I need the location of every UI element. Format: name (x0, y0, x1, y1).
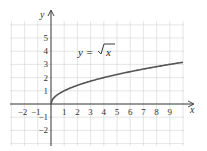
y-tick-label: 5 (44, 33, 49, 43)
x-tick-label: −2 (18, 107, 28, 117)
x-tick-label: 5 (115, 107, 120, 117)
equation-rhs: x (105, 46, 111, 58)
x-tick-label: 6 (128, 107, 133, 117)
y-axis-label: y (39, 9, 45, 20)
y-tick-label: 2 (44, 73, 49, 83)
y-tick-label: −1 (38, 112, 48, 122)
x-tick-label: 3 (88, 107, 93, 117)
y-tick-label: 3 (44, 59, 49, 69)
x-tick-label: 7 (141, 107, 146, 117)
equation-lhs: y = (77, 46, 93, 58)
y-tick-label: 4 (44, 46, 49, 56)
tick-labels: −2−1123456789−2−112345 (18, 33, 173, 135)
sqrt-function-graph: −2−1123456789−2−112345 y x y = x (0, 0, 207, 151)
x-tick-label: 4 (102, 107, 107, 117)
x-tick-label: 1 (62, 107, 67, 117)
x-tick-label: 2 (75, 107, 80, 117)
x-axis-label: x (189, 104, 195, 115)
grid-lines (10, 21, 184, 146)
y-tick-label: −2 (38, 125, 48, 135)
x-tick-label: 8 (154, 107, 159, 117)
y-tick-label: 1 (44, 86, 49, 96)
x-tick-label: 9 (168, 107, 173, 117)
